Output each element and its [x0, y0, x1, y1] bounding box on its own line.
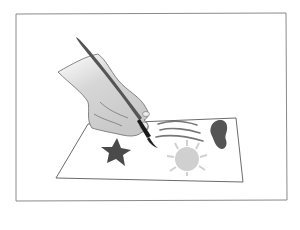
- painting-illustration: [0, 0, 300, 230]
- illustration-canvas: [0, 0, 300, 230]
